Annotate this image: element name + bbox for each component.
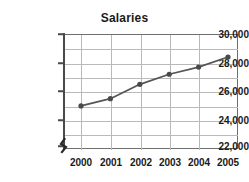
y-axis-label-30000: 30,000 (191, 29, 249, 40)
y-axis-label-24000: 24,000 (191, 115, 249, 126)
gridline-vertical (111, 35, 112, 150)
gridline-vertical (81, 35, 82, 150)
gridline-vertical (170, 35, 171, 150)
gridline-horizontal (64, 78, 238, 79)
x-axis-label-2005: 2005 (208, 157, 248, 168)
chart-title: Salaries (0, 11, 249, 25)
y-axis-label-26000: 26,000 (191, 86, 249, 97)
y-tick-mark (58, 33, 64, 35)
y-axis-label-28000: 28,000 (191, 58, 249, 69)
salaries-line-chart: Salaries 30,000 28,000 26,000 24,000 22,… (0, 0, 249, 182)
y-tick-mark (58, 119, 64, 121)
y-axis-label-22000: 22,000 (191, 141, 249, 152)
y-tick-mark (58, 90, 64, 92)
gridline-horizontal (64, 135, 238, 136)
axis-break-icon (57, 139, 71, 153)
gridline-horizontal (64, 49, 238, 50)
y-tick-mark (58, 62, 64, 64)
gridline-horizontal (64, 107, 238, 108)
gridline-vertical (141, 35, 142, 150)
